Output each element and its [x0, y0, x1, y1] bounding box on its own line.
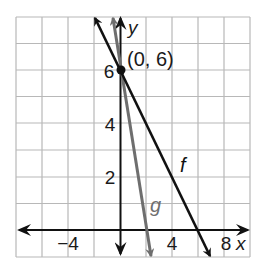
y-tick-6: 6 — [104, 61, 115, 82]
x-tick-neg4: −4 — [57, 233, 79, 254]
x-tick-4: 4 — [167, 233, 178, 254]
x-axis-label: x — [235, 233, 247, 254]
y-axis-label: y — [126, 17, 139, 38]
y-tick-4: 4 — [105, 114, 116, 135]
label-f: f — [180, 154, 188, 176]
point-label: (0, 6) — [127, 48, 174, 70]
coordinate-plane: −4 4 8 2 4 6 x y (0, 6) f g — [0, 0, 265, 264]
y-tick-2: 2 — [105, 167, 116, 188]
label-g: g — [150, 194, 161, 216]
x-tick-8: 8 — [221, 233, 232, 254]
y-intercept-point — [117, 66, 126, 75]
